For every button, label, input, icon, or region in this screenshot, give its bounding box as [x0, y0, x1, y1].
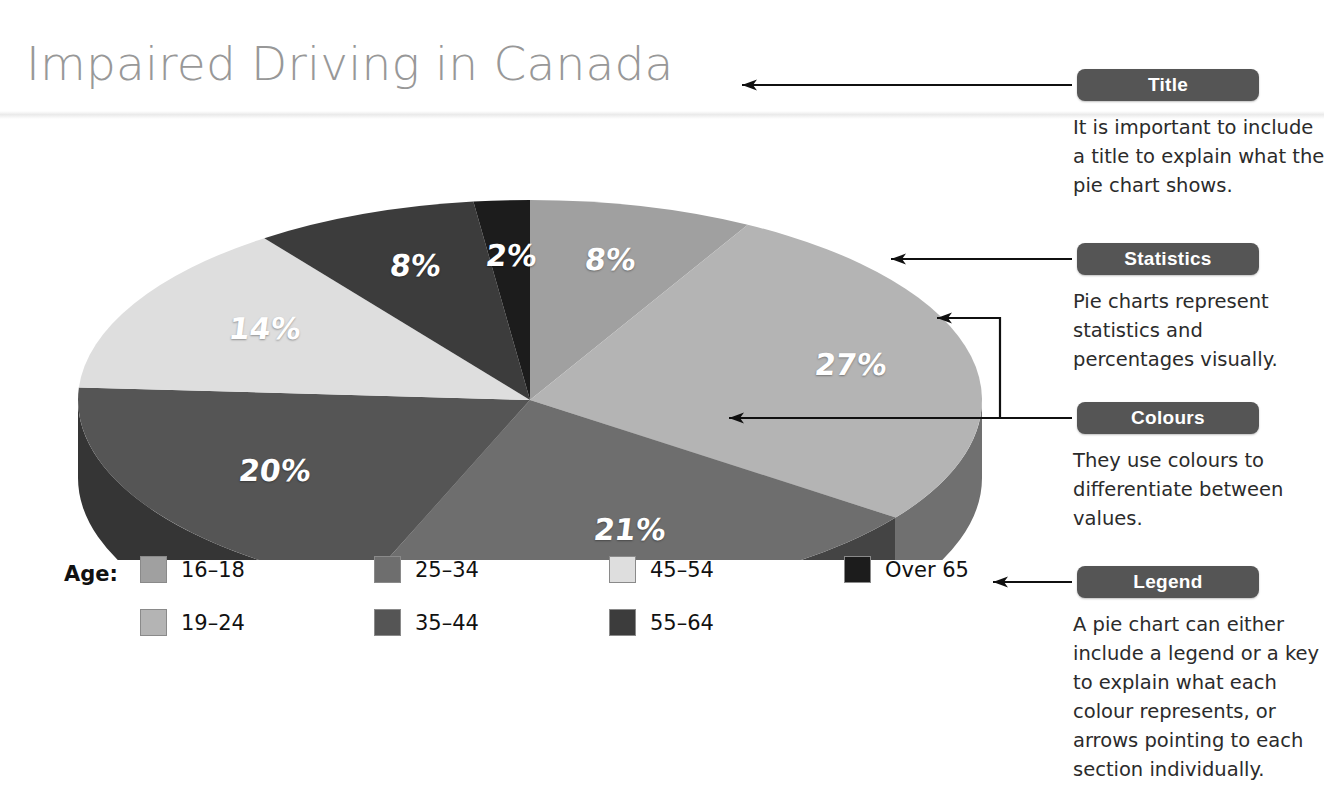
- connector-colours-edge: [937, 318, 1072, 418]
- callout-connectors: [0, 0, 1324, 798]
- poster-canvas: Impaired Driving in Canada 8%27%21%20%14…: [0, 0, 1324, 798]
